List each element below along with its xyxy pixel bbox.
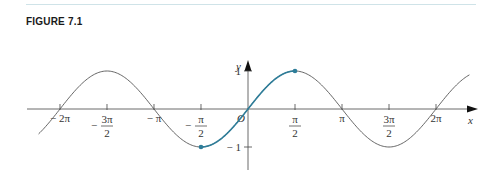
y-tick-label: 1 — [236, 65, 242, 77]
x-tick-label-sign: − — [185, 119, 191, 131]
x-tick-label: − π — [147, 112, 162, 124]
x-tick-label-denominator: 2 — [198, 127, 204, 139]
x-tick-label-denominator: 2 — [292, 127, 298, 139]
x-tick-label-sign: − — [91, 119, 97, 131]
x-tick-label-numerator: 3π — [101, 113, 113, 125]
x-tick-label: π — [339, 112, 345, 124]
x-tick-label-numerator: π — [198, 113, 204, 125]
sine-chart: yxO− 2π3π2−− ππ2−π2π3π22π1− 1 — [0, 0, 498, 180]
x-axis-label: x — [467, 114, 473, 126]
x-tick-label-denominator: 2 — [386, 127, 392, 139]
x-tick-label-numerator: 3π — [383, 113, 395, 125]
y-tick-label: − 1 — [227, 141, 241, 153]
x-tick-label-numerator: π — [292, 113, 298, 125]
endpoint-marker — [199, 145, 204, 150]
y-axis-arrow-icon — [245, 60, 252, 71]
endpoint-marker — [293, 69, 298, 74]
x-axis-arrow-icon — [467, 106, 478, 113]
x-tick-label-denominator: 2 — [104, 127, 110, 139]
